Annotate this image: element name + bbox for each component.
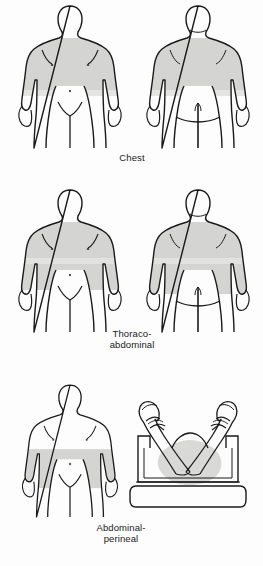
prep-shading-thoraco-anterior <box>14 222 126 290</box>
hand-right <box>108 106 121 126</box>
nipple-right <box>86 439 88 441</box>
umbilicus <box>69 90 71 93</box>
axilla-crease-right <box>87 426 96 439</box>
prep-row-chest: Chest <box>0 2 263 180</box>
figure-thoraco-posterior <box>142 186 254 336</box>
groin-crease <box>58 286 82 300</box>
table-surface-fill <box>140 448 236 486</box>
nipple-left <box>51 64 54 66</box>
boot-right-toe-line <box>219 405 234 410</box>
caption-chest: Chest <box>82 152 182 163</box>
axilla-crease-left <box>44 426 53 439</box>
figure-thoraco-anterior <box>14 186 126 336</box>
table-post-right-outer <box>226 436 238 448</box>
table-base <box>130 486 246 507</box>
figure-lithotomy-position <box>118 390 258 520</box>
boot-strap-left-mid <box>148 420 163 424</box>
figure-chest-posterior <box>142 2 254 152</box>
nipple-right <box>87 248 90 250</box>
boot-left-toe-line <box>142 405 157 410</box>
figure-chest-anterior <box>14 2 126 152</box>
hand-right <box>236 106 249 126</box>
umbilicus <box>69 274 71 277</box>
prep-row-thoraco-abdominal: Thoraco- abdominal <box>0 186 263 364</box>
umbilicus <box>69 463 71 465</box>
hand-left <box>19 106 32 126</box>
nipple-left <box>51 248 54 250</box>
caption-thoraco-abdominal: Thoraco- abdominal <box>76 328 188 350</box>
groin-crease <box>58 102 82 116</box>
groin-crease <box>59 474 81 487</box>
caption-abdominal-perineal: Abdominal- perineal <box>62 522 180 544</box>
nipple-left <box>52 439 54 441</box>
hand-left <box>19 290 32 310</box>
prep-shading-thoraco-posterior <box>142 222 254 294</box>
prep-shading-chest-anterior <box>14 38 126 96</box>
prep-row-abdominal-perineal: Abdominal- perineal <box>0 376 263 564</box>
prep-shading-chest-posterior <box>142 38 254 96</box>
figure-abdominal-perineal-anterior <box>18 376 122 526</box>
table-post-left-outer <box>138 436 150 448</box>
hand-left <box>147 106 160 126</box>
boot-strap-right-mid <box>213 420 228 424</box>
nipple-right <box>87 64 90 66</box>
hand-right <box>108 290 121 310</box>
surgical-prep-illustration: Chest <box>0 0 263 566</box>
